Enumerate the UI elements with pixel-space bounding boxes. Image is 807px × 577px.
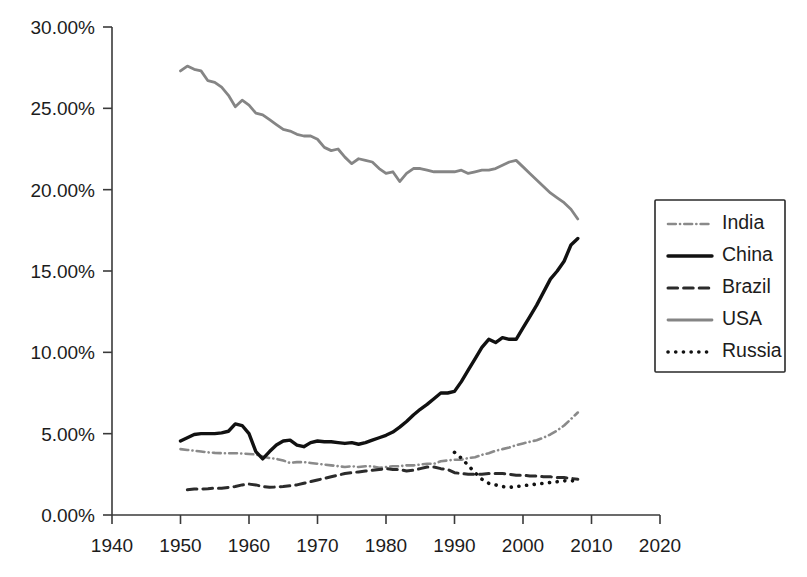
series-line-usa [181,66,578,219]
legend-label-india: India [722,211,764,233]
y-tick-label: 0.00% [41,505,95,526]
x-tick-label: 1970 [296,535,338,556]
legend-label-russia: Russia [722,339,782,361]
y-tick-label: 30.00% [31,17,96,38]
y-axis: 0.00%5.00%10.00%15.00%20.00%25.00%30.00% [31,17,112,526]
y-tick-marks [103,27,112,515]
y-tick-label: 10.00% [31,342,96,363]
x-axis: 194019501960197019801990200020102020 [91,515,681,556]
legend-label-china: China [722,243,773,265]
x-tick-labels: 194019501960197019801990200020102020 [91,535,681,556]
legend-label-brazil: Brazil [722,275,771,297]
x-tick-label: 1990 [433,535,475,556]
chart-legend: IndiaChinaBrazilUSARussia [655,200,785,372]
x-tick-marks [112,515,660,524]
x-tick-label: 2010 [570,535,612,556]
legend-label-usa: USA [722,307,762,329]
x-tick-label: 1940 [91,535,133,556]
x-tick-label: 2020 [639,535,681,556]
x-tick-label: 2000 [502,535,544,556]
x-tick-label: 1980 [365,535,407,556]
x-tick-label: 1960 [228,535,270,556]
y-tick-label: 20.00% [31,180,96,201]
series-line-india [181,413,578,468]
chart-container: 0.00%5.00%10.00%15.00%20.00%25.00%30.00%… [0,0,807,577]
plot-series-group [181,66,578,490]
x-tick-label: 1950 [159,535,201,556]
y-tick-label: 5.00% [41,424,95,445]
line-chart: 0.00%5.00%10.00%15.00%20.00%25.00%30.00%… [0,0,807,577]
y-tick-label: 25.00% [31,98,96,119]
y-tick-label: 15.00% [31,261,96,282]
y-tick-labels: 0.00%5.00%10.00%15.00%20.00%25.00%30.00% [31,17,96,526]
series-line-china [181,238,578,458]
